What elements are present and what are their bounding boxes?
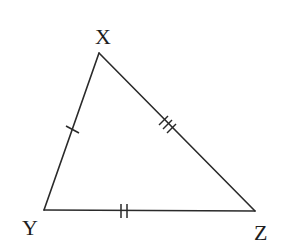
triangle-diagram: X Y Z	[0, 0, 290, 248]
side-xz	[99, 53, 255, 211]
vertex-label-z: Z	[254, 220, 267, 245]
side-xy	[44, 53, 99, 210]
tick-mark-triple-xz	[159, 116, 176, 133]
side-yz	[44, 210, 255, 211]
vertex-label-x: X	[95, 24, 111, 49]
vertex-label-y: Y	[22, 215, 38, 240]
